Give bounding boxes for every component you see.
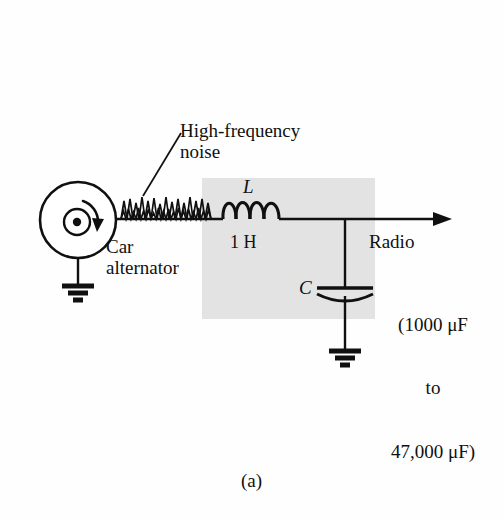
radio-output-label: Radio xyxy=(369,231,414,252)
alternator-label: Car alternator xyxy=(106,236,179,279)
ground-symbol-source xyxy=(62,286,94,300)
figure-caption: (a) xyxy=(0,470,503,491)
ground-symbol-capacitor xyxy=(329,351,361,365)
capacitor-range-line-1: (1000 μF xyxy=(366,314,500,335)
alternator-center-dot xyxy=(73,218,81,226)
capacitor-range-line-2: to xyxy=(366,377,500,398)
circuit-figure: High-frequency noise Car alternator L 1 … xyxy=(0,0,503,519)
noise-leader-line xyxy=(143,133,181,196)
capacitor-range-line-3: 47,000 μF) xyxy=(366,441,500,462)
noise-waveform xyxy=(121,197,211,219)
inductor-value-label: 1 H xyxy=(230,232,257,252)
noise-label: High-frequency noise xyxy=(180,120,300,163)
capacitor-symbol-label: C xyxy=(299,277,312,298)
output-arrowhead xyxy=(433,212,452,226)
alternator-symbol xyxy=(40,182,116,258)
inductor-symbol-label: L xyxy=(243,176,254,197)
filter-shaded-region xyxy=(202,178,375,319)
